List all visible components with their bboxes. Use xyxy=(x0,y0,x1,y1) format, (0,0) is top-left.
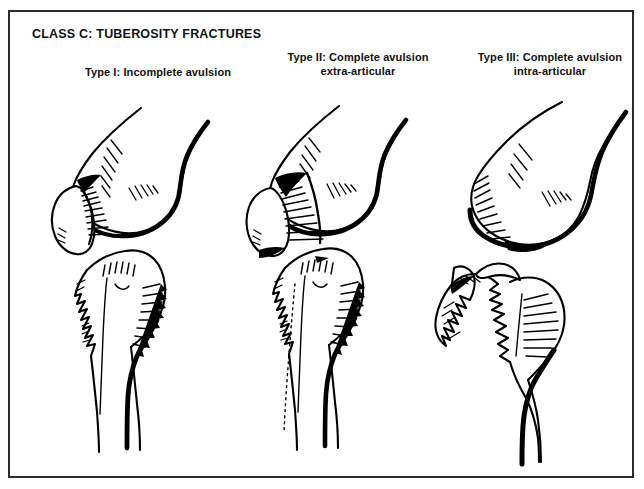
caption-type-1: Type I: Incomplete avulsion xyxy=(48,50,268,79)
humerus-incomplete-avulsion-drawing xyxy=(19,88,229,468)
caption-type-3: Type III: Complete avulsion intra-articu… xyxy=(450,50,644,78)
illustration-row xyxy=(19,88,635,468)
illustration-type-2 xyxy=(219,88,429,468)
figure-frame: CLASS C: TUBEROSITY FRACTURES Type I: In… xyxy=(8,10,634,478)
caption-type-3-line1: Type III: Complete avulsion xyxy=(478,51,622,63)
humerus-complete-avulsion-extraarticular-drawing xyxy=(219,88,429,468)
caption-type-2-line1: Type II: Complete avulsion xyxy=(287,51,428,63)
figure-title: CLASS C: TUBEROSITY FRACTURES xyxy=(32,27,261,41)
humerus-complete-avulsion-intraarticular-drawing xyxy=(414,88,634,468)
illustration-type-1 xyxy=(19,88,229,468)
caption-type-1-line1: Type I: Incomplete avulsion xyxy=(85,66,231,78)
caption-type-3-line2: intra-articular xyxy=(450,64,644,78)
illustration-type-3 xyxy=(414,88,634,468)
caption-type-2-line2: extra-articular xyxy=(258,64,458,78)
caption-type-2: Type II: Complete avulsion extra-articul… xyxy=(258,50,458,78)
